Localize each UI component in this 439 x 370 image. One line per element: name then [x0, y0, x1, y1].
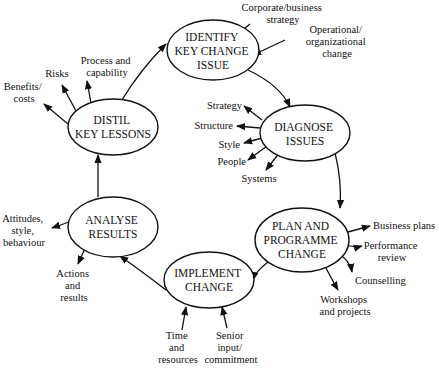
arrow-distil-process	[87, 81, 91, 103]
arrow-distil-to-identify	[122, 44, 166, 100]
label-counselling: Counselling	[355, 275, 407, 286]
arrow-diagnose-to-plan	[335, 153, 340, 208]
change-cycle-diagram: IDENTIFY KEY CHANGE ISSUE DIAGNOSE ISSUE…	[0, 0, 439, 370]
arrow-senior-to-implement	[222, 307, 227, 328]
label-people: People	[217, 156, 246, 167]
label-corporate-strategy: Corporate/business strategy	[241, 2, 324, 25]
arrow-diagnose-style	[244, 138, 262, 143]
arrow-diagnose-structure	[237, 126, 260, 128]
label-process-capability: Process and capability	[81, 55, 134, 78]
node-analyse-ellipse	[68, 197, 158, 257]
label-risks: Risks	[45, 68, 68, 79]
arrow-distil-risks	[62, 85, 76, 111]
label-structure: Structure	[195, 120, 234, 131]
node-diagnose-ellipse	[260, 105, 350, 161]
label-attitudes-behaviour: Attitudes, style, behaviour	[2, 213, 46, 248]
arrow-implement-to-analyse	[120, 256, 166, 290]
arrow-identify-to-diagnose	[248, 70, 290, 107]
label-systems: Systems	[241, 173, 276, 184]
arrow-diagnose-people	[248, 146, 267, 160]
arrow-plan-business	[348, 226, 370, 232]
label-senior-commitment: Senior input/ commitment	[204, 330, 257, 365]
label-actions-results: Actions and results	[56, 268, 91, 303]
label-time-resources: Time and resources	[158, 330, 198, 365]
arrow-time-to-implement	[182, 307, 186, 330]
arrow-diagnose-strategy	[244, 106, 262, 120]
label-strategy: Strategy	[207, 100, 243, 111]
arrow-distil-benefits	[44, 104, 68, 124]
node-distil-ellipse	[68, 99, 158, 155]
label-workshops-projects: Workshops and projects	[319, 294, 370, 317]
label-style: Style	[218, 139, 240, 150]
label-performance-review: Performance review	[364, 240, 420, 263]
node-implement-ellipse	[164, 252, 254, 308]
arrow-plan-to-implement	[253, 262, 268, 280]
label-operational-change: Operational/ organizational change	[306, 24, 369, 59]
label-business-plans: Business plans	[373, 220, 435, 231]
label-benefits-costs: Benefits/ costs	[4, 81, 45, 104]
arrow-analyse-attitudes	[52, 222, 69, 228]
